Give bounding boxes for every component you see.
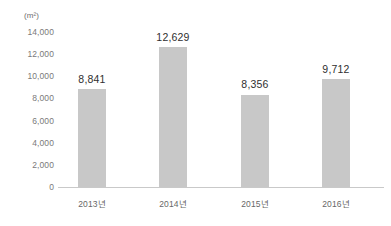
bar-group: 9,7122016년 bbox=[322, 0, 350, 226]
x-axis-category-label: 2014년 bbox=[159, 197, 186, 209]
bar-chart: (m²) 02,0004,0006,0008,00010,00012,00014… bbox=[0, 0, 391, 226]
bar-group: 8,3562015년 bbox=[241, 0, 269, 226]
bar bbox=[159, 47, 187, 187]
bar-group: 8,8412013년 bbox=[78, 0, 106, 226]
bar-value-label: 9,712 bbox=[322, 63, 349, 75]
bar bbox=[78, 89, 106, 187]
bar bbox=[241, 95, 269, 188]
x-axis-category-label: 2013년 bbox=[78, 197, 105, 209]
bar-value-label: 8,356 bbox=[241, 78, 268, 90]
plot-area: 02,0004,0006,0008,00010,00012,00014,000 … bbox=[0, 0, 391, 226]
bars-layer: 8,8412013년12,6292014년8,3562015년9,7122016… bbox=[0, 0, 391, 226]
bar-group: 12,6292014년 bbox=[159, 0, 187, 226]
bar bbox=[322, 79, 350, 187]
bar-value-label: 12,629 bbox=[156, 31, 189, 43]
x-axis-category-label: 2015년 bbox=[241, 197, 268, 209]
bar-value-label: 8,841 bbox=[78, 73, 105, 85]
x-axis-category-label: 2016년 bbox=[322, 197, 349, 209]
